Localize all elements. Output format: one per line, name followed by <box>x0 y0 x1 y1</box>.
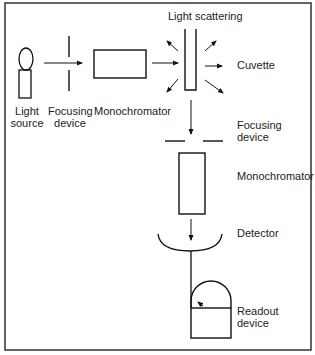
monochromator-1-icon <box>94 50 146 78</box>
label-focusing-device-1-line2: device <box>48 117 92 129</box>
label-focusing-device-2-line2: device <box>237 131 282 143</box>
label-readout-device-line2: device <box>237 317 279 329</box>
label-light-source-line2: source <box>5 117 49 129</box>
label-light-scattering: Light scattering <box>168 10 243 22</box>
label-monochromator-2: Monochromator <box>237 170 314 182</box>
label-light-source-line1: Light <box>5 105 49 117</box>
label-monochromator-1: Monochromator <box>94 105 171 117</box>
label-readout-device-line1: Readout <box>237 305 279 317</box>
monochromator-2-icon <box>179 153 205 214</box>
label-cuvette: Cuvette <box>237 59 275 71</box>
label-detector: Detector <box>237 227 279 239</box>
readout-device-icon <box>191 281 231 338</box>
cuvette-icon <box>185 29 196 90</box>
detector-icon <box>158 234 222 251</box>
label-focusing-device-1-line1: Focusing <box>48 105 92 117</box>
label-focusing-device-1: Focusing device <box>48 105 92 129</box>
label-focusing-device-2-line1: Focusing <box>237 119 282 131</box>
label-light-source: Light source <box>5 105 49 129</box>
light-source-icon <box>19 48 33 98</box>
label-readout-device: Readout device <box>237 305 279 329</box>
label-focusing-device-2: Focusing device <box>237 119 282 143</box>
scattering-arrows <box>167 41 223 93</box>
